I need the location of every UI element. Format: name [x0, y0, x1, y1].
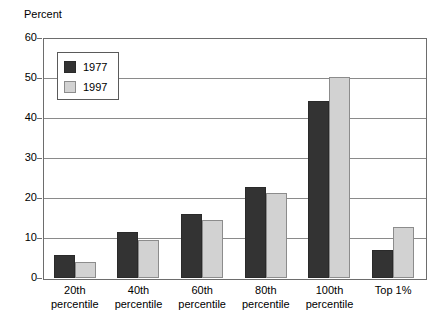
dark-square-swatch-icon [64, 61, 76, 73]
y-axis-tick-mark [37, 78, 42, 79]
x-axis-label-line: 80th [234, 283, 298, 297]
x-axis-label: 100thpercentile [298, 283, 362, 311]
bar-1997-20th-percentile [75, 262, 96, 278]
x-axis-label: 60thpercentile [170, 283, 234, 311]
legend: 1977 1997 [57, 52, 119, 100]
x-axis-label-line: percentile [107, 297, 171, 311]
y-axis-tick-mark [37, 38, 42, 39]
bar-group [361, 38, 425, 278]
bar-1997-40th-percentile [138, 240, 159, 278]
x-axis-label-line: percentile [298, 297, 362, 311]
bar-1977-60th-percentile [181, 214, 202, 278]
x-axis-label: 20thpercentile [43, 283, 107, 311]
y-axis-tick-label: 0 [9, 272, 37, 283]
y-axis-tick-label: 20 [9, 192, 37, 203]
y-axis-tick-label: 40 [9, 112, 37, 123]
x-axis-label-line: Top 1% [361, 283, 425, 297]
light-square-swatch-icon [64, 81, 76, 93]
y-axis-tick-label: 10 [9, 232, 37, 243]
y-axis-tick-label: 50 [9, 72, 37, 83]
x-axis-category-labels: 20thpercentile40thpercentile60thpercenti… [43, 283, 425, 325]
bar-1977-80th-percentile [245, 187, 266, 278]
legend-label: 1977 [83, 61, 107, 73]
bar-chart: Percent 0102030405060 20thpercentile40th… [0, 0, 435, 329]
x-axis-label: 40thpercentile [107, 283, 171, 311]
x-axis-label-line: 60th [170, 283, 234, 297]
x-axis-label-line: percentile [170, 297, 234, 311]
legend-item-1997: 1997 [64, 79, 107, 95]
bar-1997-80th-percentile [266, 193, 287, 278]
bar-1997-top-1- [393, 227, 414, 278]
y-axis-tick-mark [37, 158, 42, 159]
bar-group [170, 38, 234, 278]
y-axis-tick-mark [37, 198, 42, 199]
x-axis-label-line: 20th [43, 283, 107, 297]
x-axis-label-line: 100th [298, 283, 362, 297]
bar-1977-top-1- [372, 250, 393, 278]
x-axis-label-line: percentile [43, 297, 107, 311]
y-axis-tick-mark [37, 238, 42, 239]
bar-1977-20th-percentile [54, 255, 75, 278]
y-axis-tick-mark [37, 118, 42, 119]
y-axis-title: Percent [24, 8, 62, 21]
y-axis-tick-mark [37, 278, 42, 279]
bar-1997-60th-percentile [202, 220, 223, 278]
bar-1977-100th-percentile [308, 101, 329, 278]
x-axis-label: 80thpercentile [234, 283, 298, 311]
y-axis-tick-labels: 0102030405060 [7, 38, 37, 278]
bar-1997-100th-percentile [329, 77, 350, 278]
y-axis-tick-label: 30 [9, 152, 37, 163]
bar-group [298, 38, 362, 278]
legend-item-1977: 1977 [64, 59, 107, 75]
x-axis-label-line: percentile [234, 297, 298, 311]
x-axis-label-line: 40th [107, 283, 171, 297]
legend-label: 1997 [83, 81, 107, 93]
x-axis-label: Top 1% [361, 283, 425, 297]
y-axis-tick-label: 60 [9, 32, 37, 43]
bar-1977-40th-percentile [117, 232, 138, 278]
bar-group [234, 38, 298, 278]
